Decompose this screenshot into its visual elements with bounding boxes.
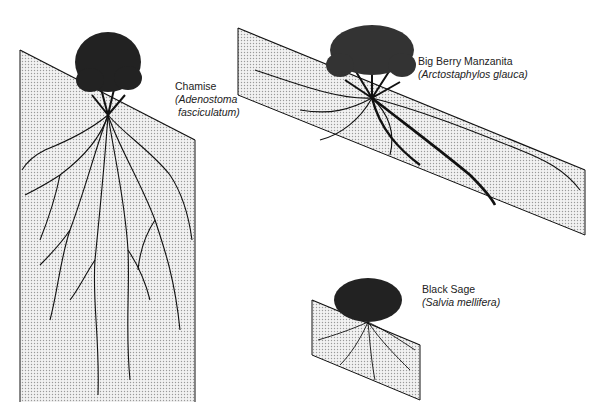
- manzanita-common-name: Big Berry Manzanita: [418, 55, 528, 68]
- manzanita-scientific-name: (Arctostaphylos glauca): [418, 68, 528, 81]
- manzanita-label: Big Berry Manzanita (Arctostaphylos glau…: [418, 55, 528, 81]
- black-sage-shrub: [334, 278, 402, 322]
- black-sage-common-name: Black Sage: [422, 283, 500, 296]
- chamise-soil-block: [20, 50, 195, 402]
- chamise-common-name: Chamise: [175, 80, 240, 93]
- chamise-scientific-name-2: fasciculatum): [175, 106, 240, 119]
- black-sage-scientific-name: (Salvia mellifera): [422, 296, 500, 309]
- chamise-scientific-name: (Adenostoma: [175, 93, 240, 106]
- chamise-label: Chamise (Adenostoma fasciculatum): [175, 80, 240, 119]
- black-sage-label: Black Sage (Salvia mellifera): [422, 283, 500, 309]
